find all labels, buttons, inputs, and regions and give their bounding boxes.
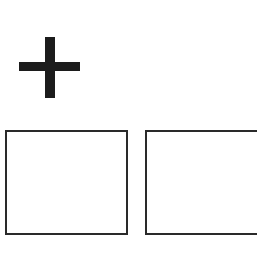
plus-icon-horizontal-bar (19, 62, 80, 71)
empty-box-right (145, 130, 257, 235)
empty-box-left (5, 130, 128, 235)
